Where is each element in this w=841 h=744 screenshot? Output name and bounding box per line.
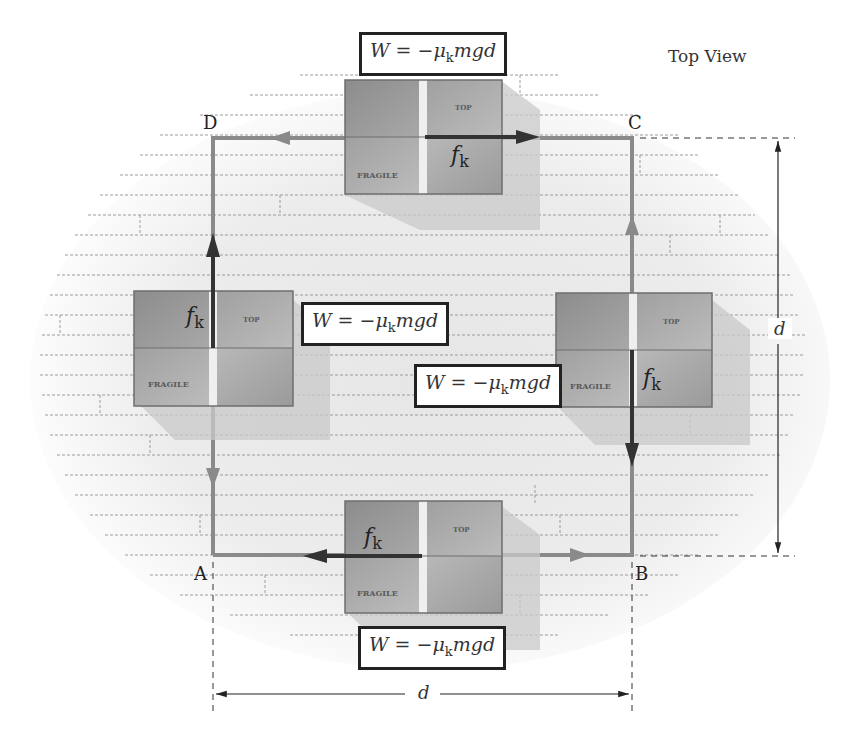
work-equation-bottom: W = −μkmgd <box>358 626 506 670</box>
friction-label-left: fk <box>186 303 204 332</box>
corner-label-b: B <box>635 563 648 584</box>
box-top-top-label: TOP <box>455 103 472 112</box>
box-bottom-top-label: TOP <box>453 525 470 534</box>
box-left-fragile-label: FRAGILE <box>148 379 189 389</box>
corner-label-c: C <box>628 112 642 133</box>
friction-label-right: fk <box>643 365 661 394</box>
dimension-label-vertical: d <box>768 318 792 339</box>
work-equation-top: W = −μkmgd <box>359 32 507 76</box>
box-right-top-label: TOP <box>663 317 680 326</box>
friction-label-top: fk <box>451 142 469 171</box>
corner-label-a: A <box>194 563 207 584</box>
box-bottom-fragile-label: FRAGILE <box>357 588 398 598</box>
box-left-top-label: TOP <box>243 315 260 324</box>
box-right-fragile-label: FRAGILE <box>570 381 611 391</box>
top-view-title: Top View <box>668 46 747 66</box>
work-equation-left: W = −μkmgd <box>301 302 449 346</box>
friction-label-bottom: fk <box>364 524 382 553</box>
box-top-fragile-label: FRAGILE <box>357 170 398 180</box>
corner-label-d: D <box>203 112 217 133</box>
dimension-label-horizontal: d <box>412 682 436 703</box>
work-equation-right: W = −μkmgd <box>414 364 562 408</box>
